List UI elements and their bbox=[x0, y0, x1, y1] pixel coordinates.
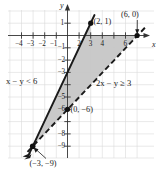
y-axis-label: y bbox=[60, 2, 64, 10]
x-tick-label--4: −4 bbox=[15, 41, 22, 48]
y-tick-label--3: −3 bbox=[58, 69, 65, 76]
x-tick-label--2: −2 bbox=[38, 41, 45, 48]
inequality-label-solid: x − y < 6 bbox=[6, 77, 37, 86]
y-tick-label--6: −6 bbox=[58, 106, 65, 113]
x-axis-arrowhead bbox=[144, 33, 151, 38]
point-label-minus3-minus9: (−3, −9) bbox=[30, 160, 57, 168]
x-tick-label--3: −3 bbox=[27, 41, 34, 48]
point-0-minus6 bbox=[65, 107, 70, 112]
point-label-2-1: (2, 1) bbox=[94, 18, 112, 26]
point-label-0-minus6: (0, −6) bbox=[71, 106, 93, 114]
leader-minus3-minus9-arrowhead bbox=[34, 147, 39, 152]
y-axis-arrowhead bbox=[65, 4, 70, 11]
y-tick-label--9: −9 bbox=[58, 143, 65, 150]
x-tick-label-4: 4 bbox=[100, 41, 104, 48]
point-label-6-0: (6, 0) bbox=[121, 11, 139, 19]
x-axis-label: x bbox=[152, 41, 156, 49]
y-tick-label-1: 1 bbox=[61, 20, 65, 27]
inequality-graph-figure: y x −4 −3 −2 −1 2 3 4 6 1 −1 −2 −3 −5 −6… bbox=[0, 0, 163, 170]
y-tick-label--8: −8 bbox=[58, 131, 65, 138]
y-tick-label--2: −2 bbox=[58, 57, 65, 64]
x-tick-label-6: 6 bbox=[124, 41, 128, 48]
x-tick-label-2: 2 bbox=[77, 41, 81, 48]
inequality-label-dashed: 2x − y ≥ 3 bbox=[96, 79, 131, 88]
y-tick-label--5: −5 bbox=[58, 94, 65, 101]
x-tick-label-3: 3 bbox=[89, 41, 93, 48]
y-tick-label--1: −1 bbox=[58, 44, 65, 51]
x-tick-label--1: −1 bbox=[50, 41, 57, 48]
